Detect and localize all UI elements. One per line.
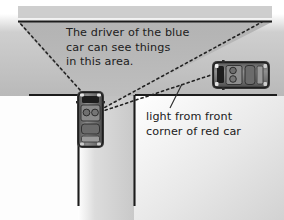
blue-car-passenger: [92, 109, 99, 116]
red-car-driver: [230, 67, 237, 74]
red-car-lower-mirror: [222, 87, 225, 90]
red-car-boot: [257, 66, 263, 84]
blue-car-left-mirror: [76, 101, 79, 103]
red-car-upper-mirror: [222, 60, 225, 63]
blue-car-rear-right-lamp: [97, 143, 101, 146]
sight-line-diagram: The driver of the blue car can see thing…: [0, 0, 284, 220]
main-road-far-shoulder: [18, 6, 272, 18]
red-car-passenger: [230, 76, 237, 83]
red-car-rear-lamp-upper: [264, 64, 268, 68]
ground-lower-left: [0, 96, 78, 220]
red-car-front-corner-lamp: [215, 64, 219, 68]
ground-lower-right: [133, 96, 284, 220]
diagram-canvas: [0, 0, 284, 220]
red-car: [212, 60, 270, 90]
blue-car-driver: [83, 109, 90, 116]
blue-car-boot: [82, 136, 100, 142]
blue-car: [76, 91, 105, 148]
blue-car-front-left-lamp: [80, 94, 84, 97]
blue-car-front-right-lamp: [97, 94, 101, 97]
blue-car-rear-left-lamp: [80, 143, 84, 146]
blue-car-right-mirror: [102, 101, 105, 103]
blue-car-rear-deck: [82, 124, 100, 134]
red-car-windscreen: [217, 66, 224, 83]
red-car-rear-lamp-lower: [264, 82, 268, 86]
red-car-front-other-lamp: [215, 82, 219, 86]
red-car-rear-deck: [245, 66, 255, 85]
blue-car-windscreen: [82, 96, 99, 103]
